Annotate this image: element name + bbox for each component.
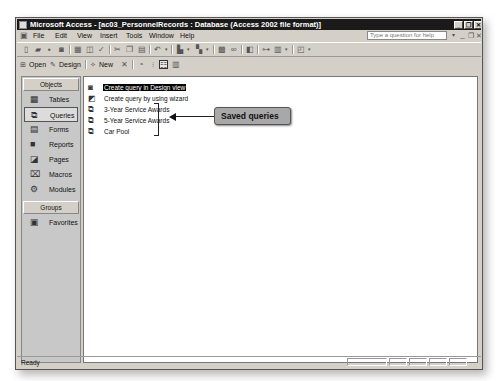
- database-window-icon: ▣: [19, 31, 28, 40]
- design-view-icon: ◙: [88, 84, 96, 92]
- window-title: Microsoft Access - [ac03_PersonnelRecord…: [30, 20, 321, 29]
- separator: [85, 60, 87, 69]
- objects-bar: Objects ▦ Tables ⧉ Queries ▤ Forms ■ Rep…: [21, 76, 81, 363]
- design-icon: ✎: [50, 60, 58, 67]
- separator: [132, 60, 134, 69]
- print-preview-icon[interactable]: ◫: [85, 45, 94, 54]
- menu-help[interactable]: Help: [180, 30, 194, 41]
- list-view-icon[interactable]: ☷: [159, 60, 168, 69]
- wizard-icon: ◩: [88, 95, 96, 103]
- open-icon[interactable]: ▰: [33, 45, 42, 54]
- groups-header[interactable]: Groups: [23, 201, 79, 214]
- query-icon: ⧉: [31, 111, 40, 120]
- toolbar-options-icon[interactable]: ▾: [305, 45, 314, 54]
- copy-icon[interactable]: ❐: [125, 45, 134, 54]
- code-icon[interactable]: ▩: [217, 45, 226, 54]
- annotation-arrowhead-icon: [169, 113, 176, 121]
- form-icon: ▤: [30, 125, 39, 134]
- saved-queries-callout: Saved queries: [214, 107, 291, 125]
- minimize-button[interactable]: _: [454, 21, 463, 29]
- menu-view[interactable]: View: [77, 30, 92, 41]
- groups-item-favorites[interactable]: ▣ Favorites: [24, 215, 78, 230]
- standard-toolbar: ▯ ▰ ▪ ◙ ▦ ◫ ✓ ✂ ❐ ▤ ↶ ▾ ▙ ▾ ▚ ▾ ▩ ∞ ◧ ⊶ …: [17, 42, 481, 57]
- menu-file[interactable]: File: [33, 30, 44, 41]
- properties-icon[interactable]: ◧: [245, 45, 254, 54]
- database-window-toolbar: ⊞Open ✎Design ✧New ✕ ᵃ ⁝ ☷ ▥: [17, 58, 481, 72]
- separator: [257, 45, 259, 54]
- status-cell: [347, 358, 387, 366]
- query-icon: ⧉: [88, 128, 96, 136]
- status-cell: [389, 358, 407, 366]
- objects-item-reports[interactable]: ■ Reports: [24, 137, 78, 152]
- new-icon[interactable]: ▯: [21, 45, 30, 54]
- new-button[interactable]: ✧New: [90, 60, 113, 70]
- menu-edit[interactable]: Edit: [55, 30, 67, 41]
- separator: [109, 45, 111, 54]
- script-editor-icon[interactable]: ∞: [229, 45, 238, 54]
- list-item-wizard[interactable]: ◩Create query by using wizard: [88, 94, 189, 104]
- objects-item-macros[interactable]: ⌧ Macros: [24, 167, 78, 182]
- access-window: Microsoft Access - [ac03_PersonnelRecord…: [15, 17, 483, 370]
- design-button[interactable]: ✎Design: [50, 60, 81, 70]
- page-icon: ◪: [30, 155, 39, 164]
- annotation-arrow-line: [174, 116, 214, 117]
- list-item-design-view[interactable]: ◙Create query in Design view: [88, 83, 186, 93]
- status-cell: [429, 358, 447, 366]
- macro-icon: ⌧: [30, 170, 39, 179]
- help-icon[interactable]: ◰: [296, 45, 305, 54]
- menu-tools[interactable]: Tools: [126, 30, 142, 41]
- help-question-input[interactable]: Type a question for help: [367, 31, 447, 40]
- objects-header[interactable]: Objects: [23, 78, 79, 91]
- office-links-dropdown-icon[interactable]: ▾: [184, 45, 193, 54]
- annotation-bracket: [154, 103, 159, 136]
- relationships-icon[interactable]: ⊶: [261, 45, 270, 54]
- objects-item-pages[interactable]: ◪ Pages: [24, 152, 78, 167]
- analyze-dropdown-icon[interactable]: ▾: [203, 45, 212, 54]
- objects-item-tables[interactable]: ▦ Tables: [24, 92, 78, 107]
- separator: [171, 45, 173, 54]
- large-icons-view-icon[interactable]: ᵃ: [137, 60, 146, 69]
- menu-insert[interactable]: Insert: [100, 30, 118, 41]
- status-cell: [409, 358, 427, 366]
- analyze-icon[interactable]: ▚: [194, 45, 203, 54]
- details-view-icon[interactable]: ▥: [171, 60, 180, 69]
- small-icons-view-icon[interactable]: ⁝: [148, 60, 157, 69]
- close-button[interactable]: ✕: [474, 21, 481, 29]
- doc-close-button[interactable]: ✕: [474, 31, 483, 40]
- menu-bar: ▣ File Edit View Insert Tools Window Hel…: [17, 30, 481, 41]
- query-icon: ⧉: [88, 117, 96, 125]
- report-icon: ■: [30, 140, 39, 149]
- save-icon[interactable]: ▪: [45, 45, 54, 54]
- objects-item-forms[interactable]: ▤ Forms: [24, 122, 78, 137]
- list-item-query[interactable]: ⧉Car Pool: [88, 127, 130, 137]
- separator: [292, 45, 294, 54]
- new-object-icon[interactable]: ▥: [273, 45, 282, 54]
- file-search-icon[interactable]: ◙: [57, 45, 66, 54]
- undo-icon[interactable]: ↶: [153, 45, 162, 54]
- menu-window[interactable]: Window: [149, 30, 174, 41]
- access-app-icon: [19, 21, 27, 29]
- print-icon[interactable]: ▦: [73, 45, 82, 54]
- open-object-icon: ⊞: [20, 60, 28, 67]
- open-button[interactable]: ⊞Open: [20, 60, 46, 70]
- objects-item-modules[interactable]: ⚙ Modules: [24, 182, 78, 197]
- spelling-icon[interactable]: ✓: [97, 45, 106, 54]
- separator: [213, 45, 215, 54]
- new-object-dropdown-icon[interactable]: ▾: [282, 45, 291, 54]
- module-icon: ⚙: [30, 185, 39, 194]
- delete-icon[interactable]: ✕: [120, 60, 129, 69]
- cut-icon[interactable]: ✂: [113, 45, 122, 54]
- restore-button[interactable]: ❐: [464, 21, 473, 29]
- new-object-icon: ✧: [90, 60, 98, 67]
- objects-item-queries[interactable]: ⧉ Queries: [24, 107, 78, 122]
- undo-dropdown-icon[interactable]: ▾: [162, 45, 171, 54]
- paste-icon[interactable]: ▤: [137, 45, 146, 54]
- separator: [241, 45, 243, 54]
- query-icon: ⧉: [88, 106, 96, 114]
- help-dropdown-icon[interactable]: ▾: [449, 31, 458, 40]
- status-text: Ready: [21, 359, 40, 366]
- office-links-icon[interactable]: ▙: [175, 45, 184, 54]
- favorites-icon: ▣: [30, 218, 39, 227]
- title-bar: Microsoft Access - [ac03_PersonnelRecord…: [17, 19, 481, 30]
- status-cell: [449, 358, 467, 366]
